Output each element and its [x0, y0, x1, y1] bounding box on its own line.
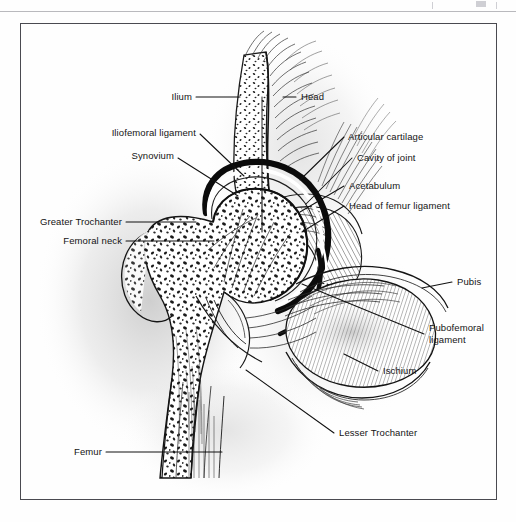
label-cavity-of-joint: Cavity of joint [357, 152, 416, 164]
label-head: Head [301, 91, 324, 103]
label-ilium: Ilium [120, 91, 192, 103]
hip-joint-illustration [0, 0, 516, 522]
label-synovium: Synovium [80, 150, 174, 162]
label-acetabulum: Acetabulum [349, 180, 400, 192]
label-articular-cartilage: Articular cartilage [348, 131, 423, 143]
label-ischium: Ischium [383, 365, 416, 377]
label-femur: Femur [48, 446, 102, 458]
label-lesser-trochanter: Lesser Trochanter [339, 427, 417, 439]
label-head-of-femur-ligament: Head of femur ligament [349, 200, 450, 212]
label-pubis: Pubis [457, 276, 481, 288]
label-femoral-neck: Femoral neck [40, 235, 122, 247]
label-iliofemoral-ligament: Iliofemoral ligament [60, 127, 196, 139]
label-greater-trochanter: Greater Trochanter [14, 216, 122, 228]
label-pubofemoral-ligament: Pubofemoral ligament [429, 322, 507, 345]
figure-page: Ilium Head Iliofemoral ligament Synovium… [0, 0, 516, 522]
